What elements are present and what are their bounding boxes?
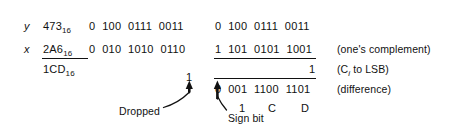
operand-hex-x-value: 2A6 — [43, 43, 63, 55]
hex-digit-c: C — [268, 102, 276, 114]
note-carry-prefix: (C — [337, 63, 348, 75]
operand-symbol-y: y — [24, 20, 30, 32]
label-sign-bit: Sign bit — [228, 112, 264, 124]
left-column-y-bits: 0 100 0111 0011 — [89, 20, 184, 32]
hex-subscript-y: 16 — [62, 26, 71, 35]
carry-in-bit: 1 — [309, 63, 315, 75]
note-ones-complement: (one's complement) — [337, 43, 431, 55]
left-column-x-bits: 0 010 1010 0110 — [89, 43, 185, 55]
operand-hex-y-value: 473 — [43, 20, 62, 32]
right-column-y-bits: 0 100 0111 0011 — [215, 20, 310, 32]
operand-hex-y: 47316 — [43, 20, 71, 32]
note-difference: (difference) — [337, 83, 391, 95]
note-carry-to-lsb: (Ci to LSB) — [337, 63, 389, 75]
dropped-carry-bit: 1 — [186, 71, 192, 83]
result-hex-value: 1CD — [43, 63, 66, 75]
hex-subscript-x: 16 — [63, 49, 72, 58]
operand-symbol-x: x — [24, 43, 30, 55]
hex-subtraction-figure: y 47316 x 2A616 1CD16 0 100 0111 0011 0 … — [0, 0, 465, 128]
hex-operand-rule — [42, 58, 88, 59]
hex-subscript-result: 16 — [66, 69, 75, 78]
note-carry-suffix: to LSB) — [350, 63, 389, 75]
right-column-difference-bits: 0 001 1100 1101 — [215, 83, 311, 95]
hex-digit-d: D — [301, 102, 309, 114]
operand-hex-x: 2A616 — [43, 43, 73, 55]
label-dropped: Dropped — [119, 105, 160, 117]
right-column-complement-bits: 1 101 0101 1001 — [215, 43, 312, 55]
result-hex: 1CD16 — [43, 63, 75, 75]
complement-rule — [214, 58, 316, 59]
carry-rule — [214, 78, 316, 79]
note-carry-subscript: i — [348, 69, 350, 78]
